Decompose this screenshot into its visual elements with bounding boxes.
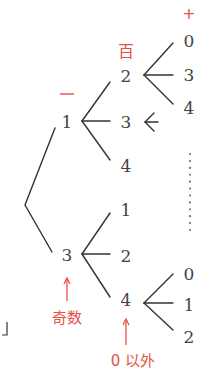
node-2-child-3: 3 (184, 65, 195, 85)
odd-label: 奇数 (52, 309, 82, 327)
node-3-edges (82, 213, 110, 297)
node-4-child-0: 0 (184, 264, 195, 284)
node-1: 1 (62, 112, 73, 132)
node-4-edges (144, 274, 173, 330)
tree-diagram: 一 1 百 2 3 4 + 0 3 4 3 1 2 4 (0, 0, 207, 385)
node-1-child-2: 2 (121, 66, 132, 86)
node-3-child-1: 1 (121, 200, 132, 220)
partial-branch-icon (145, 113, 158, 131)
root-branch-lines (25, 128, 55, 252)
nonzero-label: 0 以外 (111, 352, 155, 370)
node-3-child-4: 4 (121, 290, 132, 310)
node-1-edges (82, 82, 110, 160)
plus-label: + (182, 4, 195, 23)
root-edges (25, 128, 55, 252)
node-3: 3 (62, 245, 73, 265)
node-2-edges (144, 43, 173, 104)
nonzero-arrow-icon (123, 319, 129, 345)
odd-arrow-icon (64, 278, 70, 301)
node-4-child-2: 2 (184, 327, 195, 347)
node-2-child-4: 4 (184, 98, 195, 118)
minus-label-text: 一 (59, 84, 75, 103)
hundreds-label: 百 (118, 42, 134, 61)
node-2-child-0: 0 (184, 31, 195, 51)
node-1-child-3: 3 (121, 112, 132, 132)
corner-bracket (2, 322, 7, 335)
node-4-child-1: 1 (184, 295, 195, 315)
node-3-child-2: 2 (121, 246, 132, 266)
node-1-child-4: 4 (121, 156, 132, 176)
